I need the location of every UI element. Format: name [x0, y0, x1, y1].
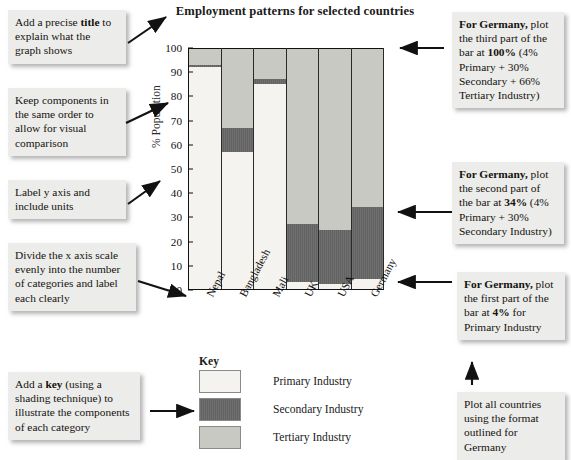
legend-label-tertiary: Tertiary Industry: [273, 431, 351, 444]
y-tick-mark: [188, 120, 193, 121]
y-tick-mark: [188, 72, 193, 73]
legend-swatch-secondary: [199, 398, 241, 421]
note-key-note: Add a key (using a shading technique) to…: [8, 372, 140, 440]
arrow-title: [128, 17, 166, 43]
x-label-cell: USA: [319, 291, 352, 357]
legend-item-primary: Primary Industry: [199, 370, 352, 393]
note-germany-second: For Germany, plot the second part of the…: [452, 162, 564, 244]
note-germany-third: For Germany, plot the third part of the …: [452, 12, 564, 108]
y-tick-50: 50: [171, 163, 188, 175]
y-tick-30: 30: [171, 211, 188, 223]
legend-item-tertiary: Tertiary Industry: [199, 426, 351, 449]
arrow-yaxis: [128, 181, 160, 204]
y-tick-mark: [188, 169, 193, 170]
note-yaxis-note: Label y axis and include units: [8, 180, 126, 219]
y-axis-ticks: 0102030405060708090100: [188, 48, 384, 290]
legend-title: Key: [199, 355, 219, 368]
chart-title: Employment patterns for selected countri…: [150, 4, 440, 19]
note-title-note: Add a precise title to explain what the …: [8, 10, 126, 64]
y-tick-20: 20: [171, 236, 188, 248]
y-tick-10: 10: [171, 260, 188, 272]
legend-label-secondary: Secondary Industry: [273, 403, 363, 416]
y-tick-70: 70: [171, 115, 188, 127]
note-xaxis-note: Divide the x axis scale evenly into the …: [8, 243, 136, 311]
y-tick-mark: [188, 265, 193, 266]
y-tick-100: 100: [165, 42, 188, 54]
y-tick-mark: [188, 241, 193, 242]
note-all-countries: Plot all countries using the format outl…: [457, 392, 565, 460]
y-tick-90: 90: [171, 66, 188, 78]
legend-swatch-tertiary: [199, 426, 241, 449]
y-tick-mark: [188, 144, 193, 145]
x-label-cell: Nepal: [188, 291, 221, 357]
chart-plot-area: 0102030405060708090100: [188, 48, 384, 290]
x-label-cell: Mali: [253, 291, 286, 357]
legend-swatch-primary: [199, 370, 241, 393]
y-tick-mark: [188, 193, 193, 194]
y-tick-40: 40: [171, 187, 188, 199]
y-tick-mark: [188, 217, 193, 218]
x-label-cell: Germany: [351, 291, 384, 357]
y-tick-0: 0: [176, 284, 188, 296]
y-tick-60: 60: [171, 139, 188, 151]
y-tick-mark: [188, 96, 193, 97]
note-order-note: Keep components in the same order to all…: [8, 88, 126, 156]
x-axis-labels: NepalBangladeshMaliUKUSAGermany: [188, 291, 384, 357]
y-tick-80: 80: [171, 90, 188, 102]
note-germany-first: For Germany, plot the first part of the …: [457, 272, 565, 340]
x-label-cell: UK: [286, 291, 319, 357]
y-tick-mark: [188, 48, 193, 49]
y-axis-label: % Population: [150, 85, 163, 148]
legend-label-primary: Primary Industry: [273, 375, 352, 388]
x-label-cell: Bangladesh: [221, 291, 254, 357]
legend-item-secondary: Secondary Industry: [199, 398, 363, 421]
